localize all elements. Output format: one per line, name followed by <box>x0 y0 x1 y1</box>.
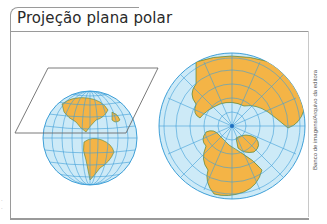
projection-diagram <box>0 0 327 224</box>
globe-icon <box>43 91 137 185</box>
polar-map-icon <box>159 53 305 199</box>
